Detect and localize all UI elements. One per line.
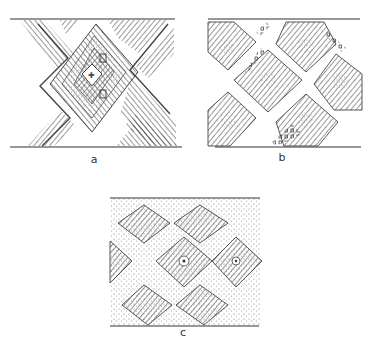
panel-b xyxy=(206,14,364,154)
panel-a: ✚ xyxy=(8,14,186,154)
panel-a-drawing: ✚ xyxy=(8,14,186,154)
panel-b-label: b xyxy=(272,151,292,164)
panel-a-label: a xyxy=(84,153,104,166)
panel-b-drawing xyxy=(206,14,364,154)
svg-text:✚: ✚ xyxy=(88,71,95,80)
panel-c-drawing xyxy=(108,193,264,333)
panel-c xyxy=(108,193,264,333)
panel-c-label: c xyxy=(173,326,193,339)
